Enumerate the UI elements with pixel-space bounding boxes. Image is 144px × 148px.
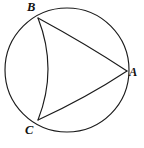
- arc-C-to-A: [38, 71, 127, 120]
- vertex-label-a: A: [129, 66, 138, 79]
- vertex-label-c: C: [25, 124, 34, 137]
- outer-circle: [5, 8, 129, 132]
- figure-canvas: [0, 0, 144, 148]
- arc-B-to-A: [38, 18, 127, 71]
- geometry-figure: A B C: [0, 0, 144, 148]
- vertex-label-b: B: [27, 1, 36, 14]
- arc-B-to-C: [38, 18, 48, 120]
